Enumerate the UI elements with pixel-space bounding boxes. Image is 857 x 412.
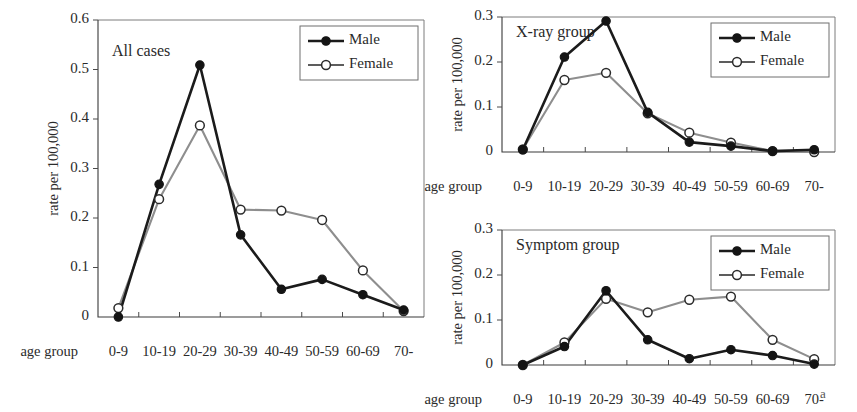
symptom-group-chart-svg: 00.10.20.3rate per 100,0000-910-1920-293… — [440, 210, 857, 410]
data-point-male — [768, 147, 776, 155]
x-axis-tick-label: 20-29 — [589, 178, 623, 194]
x-axis-tick-label: 30-39 — [224, 343, 258, 359]
data-point-male — [810, 146, 818, 154]
chart-panel-all-cases: 00.10.20.30.40.50.6rate per 100,0000-910… — [0, 0, 440, 370]
data-point-female — [236, 205, 245, 214]
y-axis-tick-label: 0.4 — [70, 109, 89, 125]
y-axis-tick-label: 0.3 — [474, 220, 493, 236]
y-axis-tick-label: 0.5 — [70, 60, 89, 76]
chart-panel-x-ray-group: 00.10.20.3rate per 100,0000-910-1920-293… — [440, 0, 857, 200]
y-axis-tick-label: 0.2 — [70, 208, 89, 224]
panel-letter-container: a — [820, 384, 840, 400]
x-axis-tick-label: 60-69 — [756, 178, 790, 194]
legend-entry-female: Female — [349, 55, 393, 71]
x-axis-tick-label: 0-9 — [109, 343, 128, 359]
data-point-male — [727, 142, 735, 150]
x-axis-tick-label: 30-39 — [631, 391, 665, 407]
data-point-female — [602, 68, 611, 77]
y-axis-label: rate per 100,000 — [449, 250, 465, 345]
x-axis-tick-label: 20-29 — [589, 391, 623, 407]
data-point-male — [560, 53, 568, 61]
legend-marker-male-icon — [733, 247, 741, 255]
data-point-male — [155, 180, 163, 188]
legend-entry-male: Male — [760, 28, 791, 44]
data-point-male — [602, 17, 610, 25]
panel-title: All cases — [112, 42, 170, 59]
y-axis-tick-label: 0.1 — [70, 258, 89, 274]
data-point-male — [727, 346, 735, 354]
y-axis-label: rate per 100,000 — [45, 121, 61, 216]
data-point-male — [519, 146, 527, 154]
data-point-male — [318, 275, 326, 283]
data-point-male — [114, 313, 122, 321]
y-axis-tick-label: 0.1 — [474, 97, 493, 113]
x-axis-tick-label: 40-49 — [672, 391, 706, 407]
data-point-female — [277, 206, 286, 215]
y-axis-label: rate per 100,000 — [449, 37, 465, 132]
legend-marker-male-icon — [733, 34, 741, 42]
data-point-male — [359, 291, 367, 299]
x-axis-caption: age group — [20, 343, 78, 359]
legend-entry-male: Male — [760, 241, 791, 257]
panel-title: Symptom group — [516, 236, 620, 254]
data-point-female — [602, 294, 611, 303]
legend-marker-female-icon — [733, 58, 742, 67]
x-axis-tick-label: 20-29 — [183, 343, 217, 359]
data-point-male — [196, 61, 204, 69]
data-point-male — [643, 108, 651, 116]
data-point-male — [685, 355, 693, 363]
x-axis-tick-label: 0-9 — [513, 178, 532, 194]
x-axis-tick-label: 50-59 — [305, 343, 339, 359]
data-point-male — [519, 361, 527, 369]
chart-panel-symptom-group: 00.10.20.3rate per 100,0000-910-1920-293… — [440, 210, 857, 410]
x-axis-tick-label: 70- — [394, 343, 414, 359]
x-ray-group-chart-svg: 00.10.20.3rate per 100,0000-910-1920-293… — [440, 0, 857, 200]
y-axis-tick-label: 0.3 — [70, 159, 89, 175]
data-point-female — [768, 335, 777, 344]
y-axis-tick-label: 0.2 — [474, 52, 493, 68]
data-point-female — [358, 266, 367, 275]
series-line-male — [118, 65, 403, 317]
data-point-female — [560, 76, 569, 85]
x-axis-tick-label: 10-19 — [142, 343, 176, 359]
data-point-female — [114, 304, 123, 313]
data-point-male — [810, 360, 818, 368]
data-point-male — [560, 342, 568, 350]
data-point-male — [685, 138, 693, 146]
x-axis-tick-label: 0-9 — [513, 391, 532, 407]
data-point-male — [277, 285, 285, 293]
y-axis-tick-label: 0.1 — [474, 310, 493, 326]
y-axis-tick-label: 0 — [82, 307, 90, 323]
y-axis-tick-label: 0 — [486, 355, 494, 371]
x-axis-caption: age group — [424, 178, 482, 194]
data-point-female — [195, 121, 204, 130]
data-point-male — [236, 231, 244, 239]
panel-title: X-ray group — [516, 23, 595, 41]
data-point-male — [768, 351, 776, 359]
all-cases-chart-svg: 00.10.20.30.40.50.6rate per 100,0000-910… — [0, 0, 440, 370]
x-axis-tick-label: 50-59 — [714, 391, 748, 407]
x-axis-tick-label: 50-59 — [714, 178, 748, 194]
data-point-male — [643, 336, 651, 344]
y-axis-tick-label: 0.6 — [70, 10, 89, 26]
panel-letter: a — [820, 386, 826, 401]
y-axis-tick-label: 0 — [486, 142, 494, 158]
data-point-female — [685, 295, 694, 304]
x-axis-tick-label: 60-69 — [756, 391, 790, 407]
legend-marker-male-icon — [322, 37, 330, 45]
data-point-female — [318, 216, 327, 225]
x-axis-tick-label: 30-39 — [631, 178, 665, 194]
x-axis-tick-label: 40-49 — [672, 178, 706, 194]
y-axis-tick-label: 0.3 — [474, 7, 493, 23]
legend-entry-female: Female — [760, 265, 804, 281]
data-point-female — [155, 195, 164, 204]
x-axis-tick-label: 10-19 — [548, 391, 582, 407]
legend-entry-male: Male — [349, 31, 380, 47]
data-point-male — [602, 287, 610, 295]
data-point-female — [643, 308, 652, 317]
legend-entry-female: Female — [760, 52, 804, 68]
legend-marker-female-icon — [733, 271, 742, 280]
legend-marker-female-icon — [322, 61, 331, 70]
x-axis-tick-label: 40-49 — [264, 343, 298, 359]
figure-root: 00.10.20.30.40.50.6rate per 100,0000-910… — [0, 0, 857, 412]
